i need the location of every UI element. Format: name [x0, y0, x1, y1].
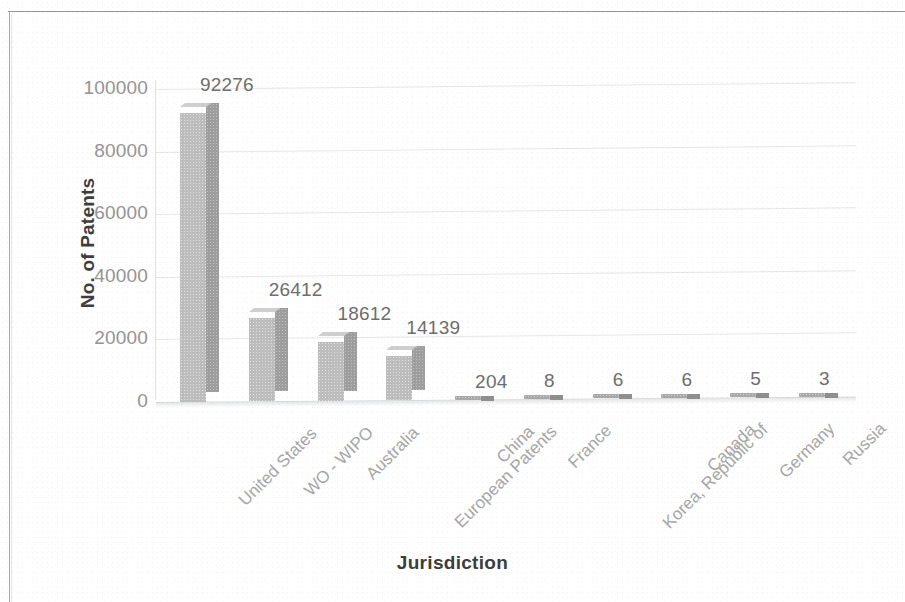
plot-back-wall-edge: [155, 80, 156, 400]
bar-value-label: 3: [819, 368, 830, 390]
y-axis-tick-label: 40000: [94, 265, 148, 287]
y-axis-tick-label: 80000: [94, 140, 148, 162]
bar-top-face: [386, 346, 417, 350]
y-axis-title: No. of Patents: [77, 143, 99, 343]
bar-front-face: [180, 113, 206, 402]
x-axis-category-label: United States: [235, 424, 321, 510]
y-axis-tick-label: 0: [137, 390, 148, 412]
bar: [386, 346, 425, 400]
bar: [799, 393, 825, 397]
bar-side-face: [344, 332, 357, 390]
bar: [455, 395, 481, 399]
bar-front-face: [318, 342, 344, 400]
gridline: [156, 145, 856, 153]
bar: [524, 395, 550, 399]
bar-value-label: 6: [681, 369, 692, 391]
bar-value-label: 6: [613, 369, 624, 391]
bar-value-label: 14139: [406, 317, 460, 339]
bar-side-face: [756, 393, 769, 398]
y-axis-tick-label: 100000: [83, 77, 148, 99]
x-axis-category-label: Germany: [776, 419, 840, 483]
y-axis-tick-label: 20000: [94, 327, 148, 349]
bar-value-label: 18612: [338, 303, 392, 325]
bar: [318, 332, 357, 400]
bar-value-label: 5: [750, 368, 761, 390]
screenshot-root: 020000400006000080000100000 No. of Paten…: [0, 0, 905, 602]
bar-side-face: [275, 308, 288, 391]
bar: [249, 308, 288, 401]
bar-side-face: [481, 395, 494, 400]
bar: [593, 394, 619, 398]
x-axis-category-label: Russia: [839, 419, 890, 470]
gridline: [156, 82, 856, 90]
bar-side-face: [687, 394, 700, 399]
bar-side-face: [550, 395, 563, 400]
bar-value-label: 8: [544, 370, 555, 392]
y-axis-tick-label: 60000: [94, 202, 148, 224]
x-axis-title: Jurisdiction: [0, 552, 905, 574]
bar-front-face: [249, 318, 275, 401]
x-axis-category-label: France: [564, 421, 616, 473]
bar-value-label: 204: [475, 371, 507, 393]
gridline: [156, 270, 856, 278]
bar-value-label: 92276: [200, 74, 254, 96]
gridline: [156, 207, 856, 215]
bar-side-face: [412, 346, 425, 390]
y-axis-tick-labels: 020000400006000080000100000: [0, 0, 148, 602]
bar-value-label: 26412: [269, 279, 323, 301]
bar: [180, 103, 219, 402]
bar-chart: 020000400006000080000100000 No. of Paten…: [0, 0, 905, 602]
bar: [730, 393, 756, 397]
bar-side-face: [619, 394, 632, 399]
bar-top-face: [180, 103, 211, 107]
bar-side-face: [825, 393, 838, 398]
bar-side-face: [206, 103, 219, 392]
bar: [661, 394, 687, 398]
bar-top-face: [318, 332, 349, 336]
bar-front-face: [386, 356, 412, 400]
